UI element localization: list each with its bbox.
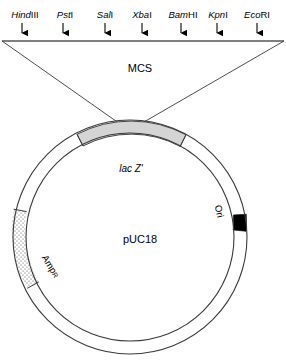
mcs-region: HindIII PstI SalI XbaI BamHI KpnI EcoRI [2, 9, 284, 126]
plasmid-name-label: pUC18 [123, 233, 157, 245]
enzyme-label-xbai: XbaI [131, 9, 152, 20]
ampr-label: AmpR [40, 253, 62, 280]
segment-boundaries [14, 134, 186, 288]
mcs-label: MCS [128, 62, 152, 74]
enzyme-label-sali: SalI [97, 9, 113, 20]
lacz-segment-fill [77, 121, 186, 146]
enzyme-label-hindiii: HindIII [11, 9, 38, 20]
plasmid-map-figure: HindIII PstI SalI XbaI BamHI KpnI EcoRI [0, 0, 286, 360]
ampr-segment-fill [12, 209, 39, 288]
lacz-label: lac Z' [119, 163, 144, 174]
funnel-line-left [2, 41, 123, 126]
ori-label: Ori [213, 204, 226, 219]
enzyme-label-psti: PstI [57, 9, 73, 20]
diagram-canvas: HindIII PstI SalI XbaI BamHI KpnI EcoRI [0, 0, 286, 360]
enzyme-label-ecori: EcoRI [244, 9, 270, 20]
enzyme-label-kpni: KpnI [208, 9, 228, 20]
ori-segment-fill [233, 214, 246, 231]
enzyme-label-bamhi: BamHI [168, 9, 197, 20]
plasmid-circle: lac Z' pUC18 Ori AmpR [12, 120, 247, 354]
funnel-line-right [137, 41, 284, 126]
enzyme-site-arrows [22, 23, 257, 33]
